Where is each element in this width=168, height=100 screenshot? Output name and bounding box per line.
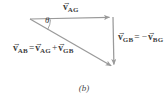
- minus-sign: −: [141, 32, 148, 42]
- vector-ag-line: [30, 17, 110, 19]
- figure-caption: (b): [0, 83, 168, 93]
- plus-sign: +: [51, 43, 58, 53]
- vector-ab-label: v→AB=v→AG+v→GB: [13, 44, 74, 54]
- subscript-ab: AB: [18, 47, 28, 55]
- subscript-ag: AG: [68, 6, 79, 14]
- equals-sign: =: [133, 32, 140, 42]
- subscript-gb-2: GB: [63, 47, 74, 55]
- angle-theta-label: θ: [45, 16, 49, 25]
- subscript-bg: BG: [153, 36, 164, 44]
- vector-ag-label: v→AG: [63, 3, 79, 13]
- vector-gb-label: v→GB=−v→BG: [118, 33, 163, 43]
- equals-sign: =: [28, 43, 35, 53]
- subscript-ag-2: AG: [40, 47, 51, 55]
- figure-canvas: v→AG v→GB=−v→BG v→AB=v→AG+v→GB θ (b): [0, 0, 168, 100]
- subscript-gb: GB: [123, 36, 134, 44]
- vector-gb-line: [113, 17, 114, 65]
